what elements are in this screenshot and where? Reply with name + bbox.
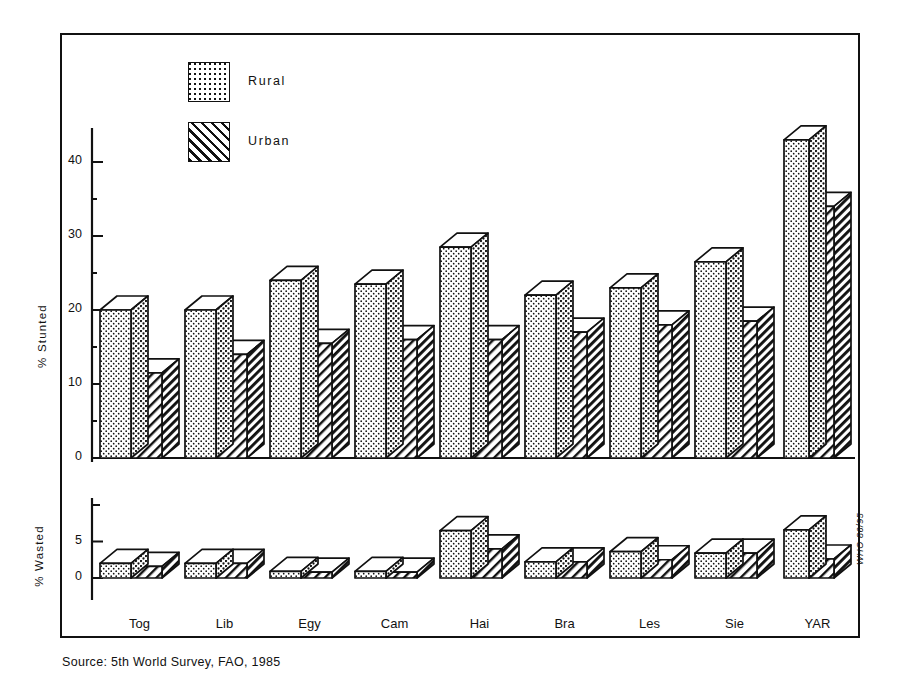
legend-label-rural: Rural [248,74,286,88]
axis-tick-label: 5 [48,533,82,547]
source-note: Source: 5th World Survey, FAO, 1985 [62,655,280,669]
axis-tick-label: 40 [48,153,82,167]
legend-swatch-urban [188,122,230,162]
category-label-bra: Bra [520,616,610,631]
category-label-lib: Lib [180,616,270,631]
chart-root: % Stunted % Wasted 01020304005 TogLibEgy… [0,0,922,690]
category-label-sie: Sie [690,616,780,631]
category-label-egy: Egy [265,616,355,631]
stunted-axis-title: % Stunted [36,276,48,396]
bars-stunted-panel [100,126,851,458]
axis-tick-label: 0 [48,569,82,583]
legend-swatch-rural [188,62,230,102]
axis-tick-label: 10 [48,375,82,389]
bars-wasted-panel [100,516,851,578]
category-label-hai: Hai [435,616,525,631]
axis-tick-label: 30 [48,227,82,241]
who-code-label: WHO 86/95 [855,475,865,565]
chart-canvas [0,0,922,690]
axis-tick-label: 0 [48,449,82,463]
legend-label-urban: Urban [248,134,290,148]
category-label-tog: Tog [95,616,185,631]
category-label-les: Les [605,616,695,631]
category-label-cam: Cam [350,616,440,631]
axis-tick-label: 20 [48,301,82,315]
category-label-yar: YAR [773,616,863,631]
wasted-axis-title: % Wasted [33,496,45,616]
